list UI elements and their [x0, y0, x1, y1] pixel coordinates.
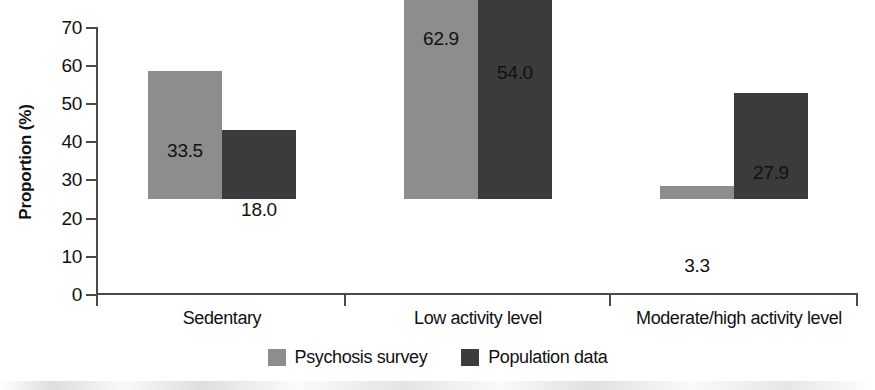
x-tick-group-2 — [609, 295, 611, 306]
x-category-label-low-activity-level: Low activity level — [384, 308, 572, 329]
scan-artifact-band — [0, 381, 875, 390]
legend-swatch-icon-population-data — [461, 349, 479, 366]
bar-value-low-activity-population-data: 54.0 — [478, 62, 552, 84]
bar-value-sedentary-psychosis-survey: 33.5 — [148, 140, 222, 162]
bar-sedentary-psychosis-survey — [148, 71, 222, 199]
bar-value-moderate-high-activity-psychosis-survey: 3.3 — [660, 255, 734, 277]
bar-low-activity-population-data — [478, 0, 552, 199]
bar-chart-figure: Proportion (%) 0 10 20 30 40 50 60 70 33 — [0, 0, 875, 390]
legend-item-psychosis-survey: Psychosis survey — [268, 347, 428, 368]
legend-swatch-icon-psychosis-survey — [268, 349, 286, 366]
legend-label-population-data: Population data — [488, 347, 607, 368]
bar-sedentary-population-data — [222, 130, 296, 199]
bar-value-sedentary-population-data: 18.0 — [222, 199, 296, 221]
plot-area: 33.5 18.0 62.9 54.0 3.3 27.9 — [0, 0, 875, 295]
x-tick-end — [856, 295, 858, 306]
x-category-label-moderate-high-activity-level: Moderate/high activity level — [610, 308, 868, 329]
bar-value-moderate-high-activity-population-data: 27.9 — [734, 162, 808, 184]
x-category-label-sedentary: Sedentary — [140, 308, 304, 329]
chart-legend: Psychosis survey Population data — [0, 347, 875, 368]
legend-item-population-data: Population data — [461, 347, 607, 368]
bar-moderate-high-activity-psychosis-survey — [660, 186, 734, 199]
x-tick-group-1 — [344, 295, 346, 306]
x-tick-start — [96, 295, 98, 306]
legend-label-psychosis-survey: Psychosis survey — [295, 347, 428, 368]
bar-value-low-activity-psychosis-survey: 62.9 — [404, 28, 478, 50]
